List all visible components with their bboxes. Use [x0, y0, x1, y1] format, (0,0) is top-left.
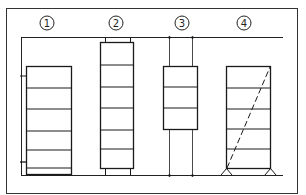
svg-text:2: 2 — [113, 18, 119, 29]
structure-4-freestanding-braced — [221, 67, 276, 176]
label-2: 2 — [109, 16, 123, 30]
svg-text:4: 4 — [241, 18, 247, 29]
outer-frame — [7, 9, 298, 194]
svg-text:3: 3 — [179, 18, 185, 29]
structure-1-wall-mounted — [20, 67, 72, 175]
structure-2-ceiling-floor-fixed — [100, 37, 134, 175]
svg-text:1: 1 — [44, 18, 50, 29]
diagram-canvas: 1 2 3 4 — [0, 0, 306, 195]
label-1: 1 — [40, 16, 54, 30]
label-4: 4 — [237, 16, 251, 30]
label-3: 3 — [175, 16, 189, 30]
structure-3-post-mounted — [163, 37, 198, 177]
